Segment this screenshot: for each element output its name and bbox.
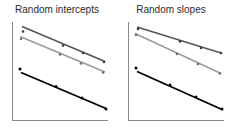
data-point [197, 63, 200, 66]
data-point [55, 85, 58, 88]
series-group-1-dark-gray [22, 27, 106, 64]
data-point [135, 34, 138, 37]
data-point [176, 53, 179, 56]
panel-random-slopes: Random slopes [114, 0, 228, 131]
series-group-3-black [135, 67, 224, 111]
fit-line-group-3 [137, 72, 222, 110]
figure-canvas: Random intercepts [0, 0, 228, 131]
panel-random-intercepts: Random intercepts [0, 0, 114, 131]
data-point [220, 52, 223, 55]
data-point [102, 71, 105, 74]
fit-line-group-2 [20, 37, 105, 73]
data-point [219, 72, 222, 75]
fit-line-group-1 [22, 27, 105, 62]
data-point [82, 52, 85, 55]
data-point [200, 47, 203, 50]
scatter-plot-random-slopes [114, 0, 228, 131]
data-point [22, 30, 25, 33]
data-point [221, 108, 224, 111]
data-point [137, 28, 140, 31]
scatter-plot-random-intercepts [0, 0, 114, 131]
data-point [105, 108, 108, 111]
data-point [135, 67, 138, 70]
data-point [59, 53, 62, 56]
data-point [195, 96, 198, 99]
data-point [169, 84, 172, 87]
data-point [103, 61, 106, 64]
data-point [19, 68, 22, 71]
series-group-2-light-gray [20, 37, 105, 74]
series-group-3-black [19, 68, 108, 111]
plot-area-random-slopes [114, 0, 228, 131]
data-point [62, 44, 65, 47]
fit-line-group-3 [21, 73, 106, 109]
data-point [20, 38, 23, 41]
data-point [179, 40, 182, 43]
data-point [81, 97, 84, 100]
data-point [80, 62, 83, 65]
plot-area-random-intercepts [0, 0, 114, 131]
